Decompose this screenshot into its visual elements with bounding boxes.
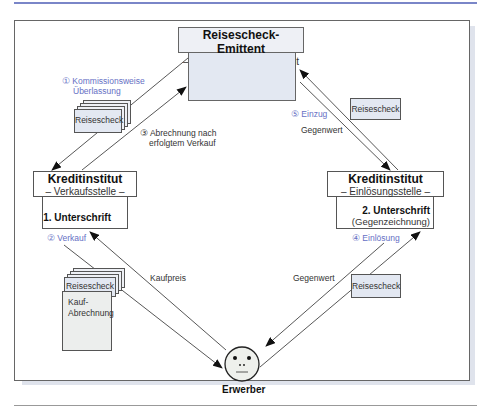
step-1-label: ① Kommissionsweise Überlassung [62,76,145,96]
redeem-bank-title: Kreditinstitut [328,172,443,186]
purchase-statement: Kauf- Abrechnung [62,291,112,351]
step-3-line2: erfolgtem Verkauf [140,138,217,148]
check-left-top: Reisescheck [74,109,122,133]
seller-signature: 1. Unterschrift [43,212,111,223]
kaufpreis-label: Kaufpreis [150,273,186,283]
seller-bank-body: 1. Unterschrift [42,197,128,229]
check-label: Reisescheck [352,281,400,291]
purchase-statement-line2: Abrechnung [68,308,111,319]
check-label: Reisescheck [351,104,399,114]
check-right-bottom: Reisescheck [351,274,401,298]
check-right-top: Reisescheck [350,98,401,120]
seller-bank-box: Kreditinstitut – Verkaufsstelle – [33,171,137,197]
purchase-statement-line1: Kauf- [68,297,111,308]
redeem-bank-box: Kreditinstitut – Einlösungsstelle – [327,171,444,197]
buyer-label: Erwerber [222,384,264,395]
gegenwert-bottom-label: Gegenwert [293,273,335,283]
buyer-face-icon [222,344,262,384]
seller-bank-title: Kreditinstitut [34,172,136,186]
step-3-label: ③ Abrechnung nach erfolgtem Verkauf [140,128,217,148]
step-4-label: ④ Einlösung [352,233,400,243]
emitter-body [188,53,296,101]
check-label: Reisescheck [66,281,114,291]
check-label: Reisescheck [75,115,123,125]
gegenwert-top-label: Gegenwert [301,125,343,135]
step-1-line1: ① Kommissionsweise [62,76,145,86]
emitter-box: Reisescheck-Emittent – Bezogenes Krediti… [178,27,304,53]
emitter-title: Reisescheck-Emittent [179,28,303,56]
step-5-label: ⑤ Einzug [291,109,327,119]
redeem-signature: 2. Unterschrift [337,205,430,216]
redeem-countersign: (Gegenzeichnung) [337,216,430,228]
redeem-bank-body: 2. Unterschrift (Gegenzeichnung) [336,197,434,229]
step-1-line2: Überlassung [62,86,145,96]
step-2-label: ② Verkauf [47,233,86,243]
step-3-line1: ③ Abrechnung nach [140,128,217,138]
